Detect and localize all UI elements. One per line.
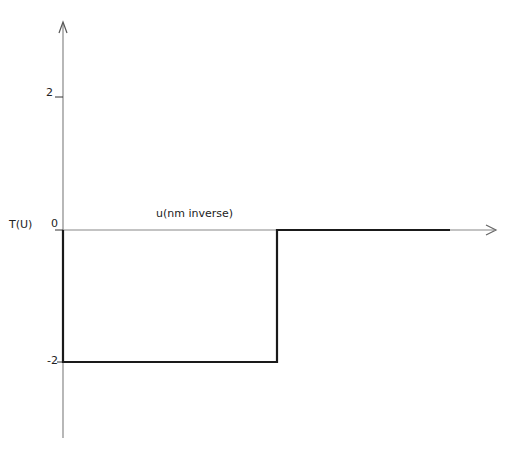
tick-label-neg2: -2 [47,355,58,366]
step-series-line [63,230,450,362]
y-axis-title: T(U) [9,219,32,230]
tick-label-0: 0 [51,218,58,229]
x-axis-title: u(nm inverse) [156,208,233,219]
tick-label-2: 2 [46,87,53,98]
chart-svg [0,0,512,449]
chart-area: T(U) u(nm inverse) 2 0 -2 [0,0,512,449]
